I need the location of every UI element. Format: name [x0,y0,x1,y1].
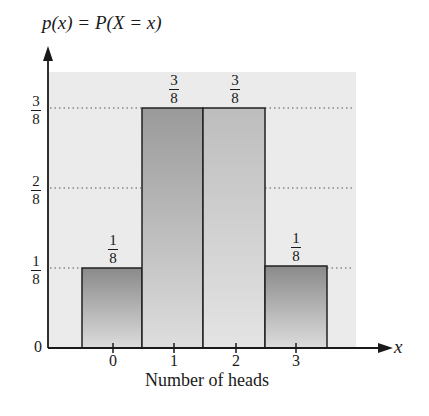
y-tick-num: 2 [31,174,41,191]
bar-label-1: 3 8 [164,73,184,106]
x-tick-label-0: 0 [103,352,123,370]
y-tick-num: 3 [31,94,41,111]
y-tick-3-8: 3 8 [26,94,46,127]
y-tick-0: 0 [34,338,42,356]
bar-1 [142,108,203,348]
bar-label-num: 1 [291,231,301,248]
y-tick-2-8: 2 8 [26,174,46,207]
bar-label-num: 3 [230,73,240,90]
histogram-chart [0,0,429,416]
bar-2 [203,108,265,348]
bar-label-0: 1 8 [103,233,123,266]
x-axis-label: Number of heads [145,370,269,391]
y-tick-1-8: 1 8 [26,254,46,287]
x-tick-label-3: 3 [286,352,306,370]
x-axis-name: x [394,336,402,358]
chart-title: p(x) = P(X = x) [42,12,162,34]
bar-label-num: 3 [169,73,179,90]
bar-label-num: 1 [108,233,118,250]
title-left: p(x) = [42,12,95,33]
x-tick-label-1: 1 [164,352,184,370]
bar-label-2: 3 8 [225,73,245,106]
bar-label-den: 8 [292,248,300,264]
bar-3 [265,266,327,348]
bar-label-den: 8 [109,250,117,266]
y-tick-den: 8 [32,191,40,207]
y-tick-den: 8 [32,271,40,287]
bar-label-3: 1 8 [286,231,306,264]
y-axis-arrow-icon [43,46,53,61]
x-tick-label-2: 2 [226,352,246,370]
bar-0 [82,268,142,348]
bar-label-den: 8 [170,90,178,106]
bar-label-den: 8 [231,90,239,106]
y-tick-den: 8 [32,111,40,127]
x-axis-arrow-icon [378,343,393,353]
y-tick-num: 1 [31,254,41,271]
title-right: P(X = x) [95,12,162,33]
